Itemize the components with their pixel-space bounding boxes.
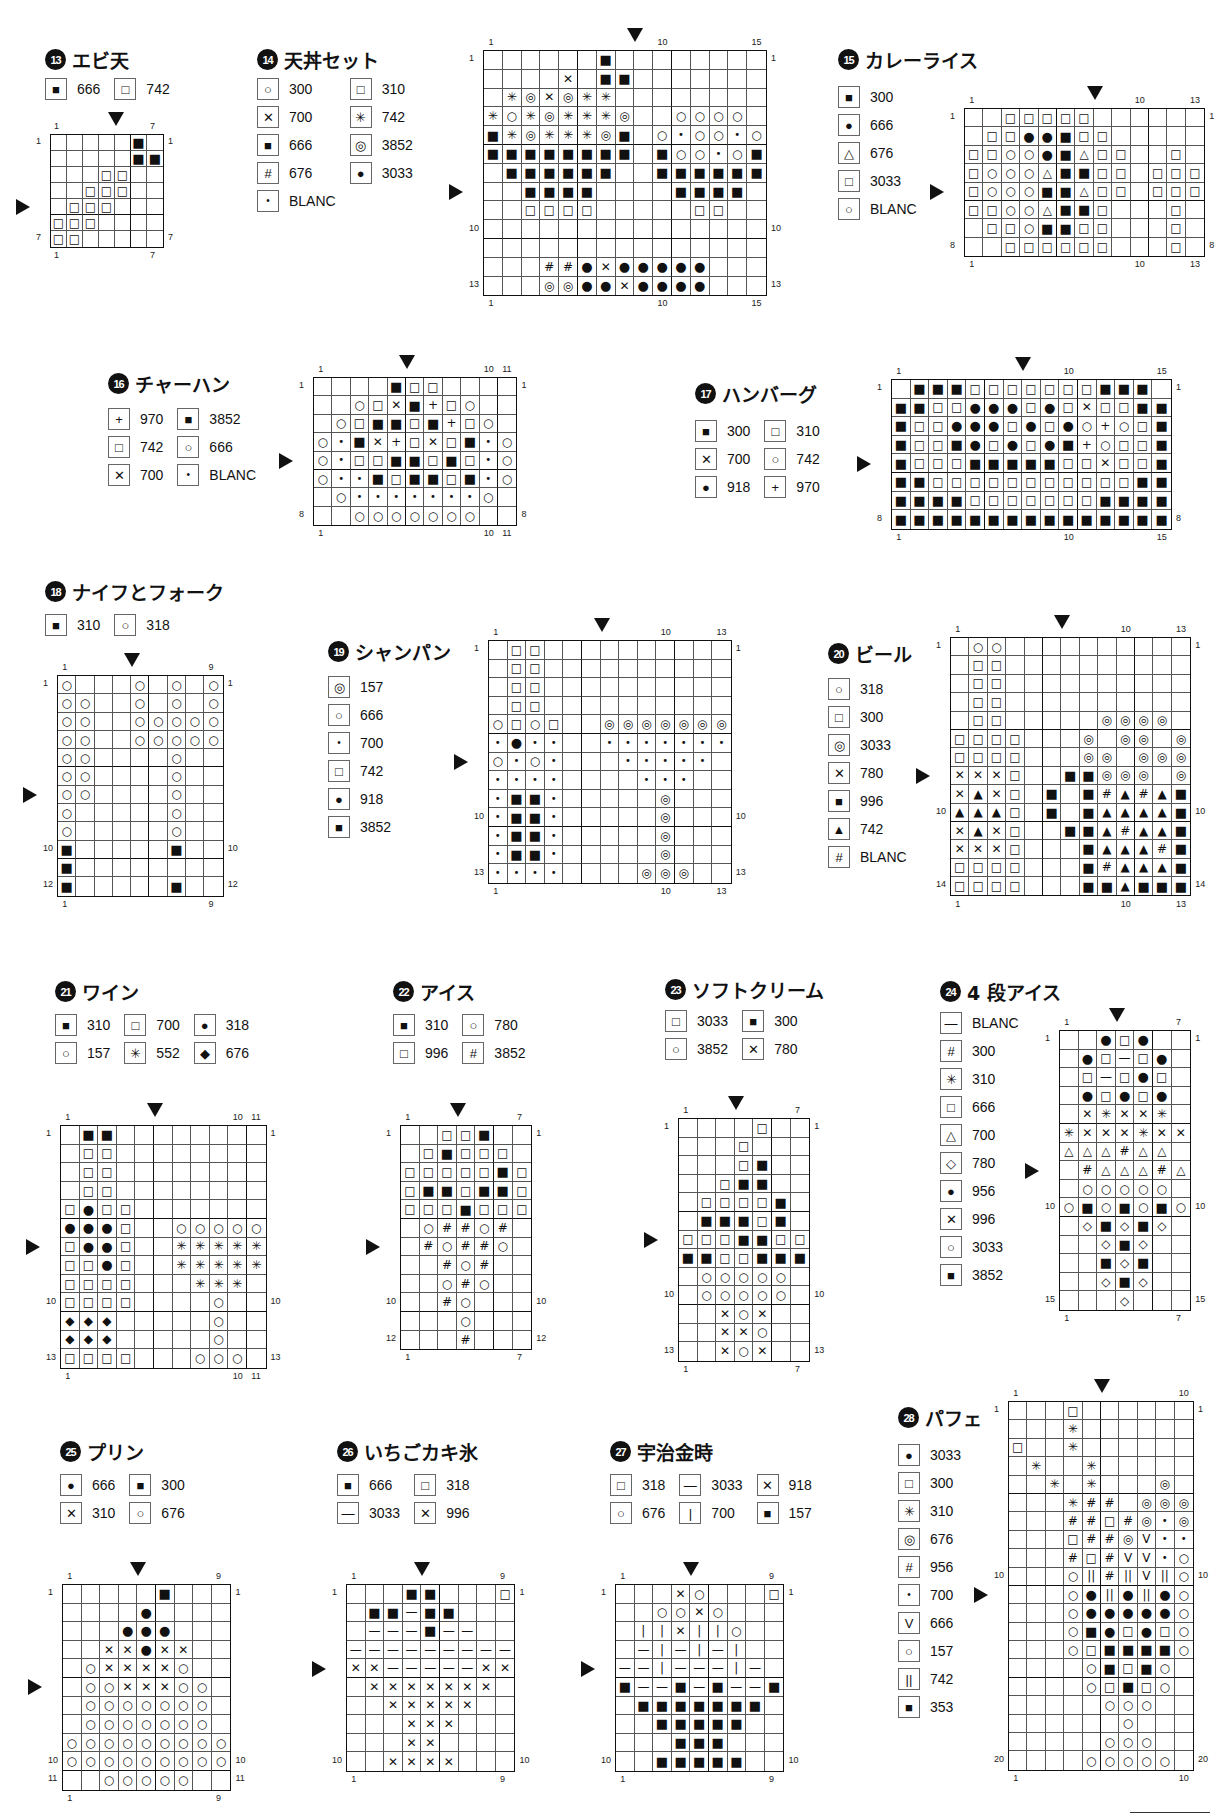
grid-cell (247, 1293, 266, 1312)
grid-cell: □ (83, 199, 99, 215)
grid-cell: — (403, 1659, 422, 1678)
color-legend: ■300●666△676□3033○BLANC (838, 86, 917, 220)
legend-thread-code: 666 (209, 439, 232, 455)
grid-cell (698, 1138, 717, 1157)
grid-cell (154, 1163, 173, 1182)
grid-cell (247, 1275, 266, 1294)
grid-cell: □ (578, 201, 597, 220)
axis-label-left: 11 (48, 1773, 57, 1783)
dot-icon: • (257, 190, 279, 212)
grid-cell (601, 808, 620, 827)
grid-cell (1079, 1031, 1098, 1050)
grid-cell (228, 1331, 247, 1350)
grid-cell: ✕ (951, 785, 969, 803)
grid-cell (1135, 638, 1153, 656)
grid-cell (186, 822, 204, 840)
grid-cell (484, 183, 503, 202)
legend-thread-code: 742 (796, 451, 819, 467)
grid-cell: # (1119, 1512, 1137, 1530)
grid-cell (1149, 201, 1167, 219)
triangle-open-icon: △ (838, 142, 860, 164)
grid-cell: □ (983, 127, 1001, 145)
grid-cell: ◆ (98, 1312, 117, 1331)
grid-cell (522, 239, 541, 258)
grid-cell: ■ (690, 1697, 709, 1716)
grid-cell: ■ (1152, 399, 1171, 418)
grid-cell: ✕ (1079, 1105, 1098, 1124)
center-row-arrow-icon (449, 184, 463, 200)
grid-cell (616, 1697, 635, 1716)
grid-cell (175, 1604, 194, 1623)
grid-cell (563, 660, 582, 679)
grid-cell: □ (1004, 492, 1023, 511)
legend-item: #956 (898, 1556, 961, 1578)
grid-cell: ▲ (951, 804, 969, 822)
grid-cell: ■ (98, 1126, 117, 1145)
grid-cell: ✳ (191, 1256, 210, 1275)
grid-cell: ■ (772, 1212, 791, 1231)
legend-thread-code: 676 (642, 1505, 665, 1521)
grid-cell: ✕ (716, 1305, 735, 1324)
color-legend: —BLANC#300✳310□666△700◇780●956✕996○3033■… (940, 1012, 1019, 1286)
grid-cell (638, 697, 657, 716)
grid-cell (563, 753, 582, 772)
grid-cell (765, 1659, 784, 1678)
legend-item: ■310 (55, 1014, 110, 1036)
grid-cell: ■ (635, 1697, 654, 1716)
grid-cell: ■ (1075, 201, 1093, 219)
pattern-title-text: 4 段アイス (967, 978, 1061, 1005)
grid-cell (1009, 1733, 1027, 1751)
grid-cell: □ (461, 452, 479, 470)
grid-cell: ○ (76, 731, 94, 749)
grid-cell (63, 1697, 82, 1716)
grid-cell: □ (1022, 380, 1041, 399)
grid-cell (712, 808, 731, 827)
grid-cell: □ (1075, 109, 1093, 127)
grid-cell: ● (653, 277, 672, 296)
legend-thread-code: 996 (972, 1211, 995, 1227)
grid-cell: □ (61, 1275, 80, 1294)
stitch-grid: □□□□□□□●●■□□□□○○●■△□□□□○○○△■■□□□□□□○○○■■… (964, 108, 1205, 257)
grid-cell: ■ (421, 1604, 440, 1623)
grid-cell (61, 1126, 80, 1145)
grid-cell (212, 1585, 231, 1604)
grid-cell: ○ (156, 1715, 175, 1734)
grid-cell: ✕ (1116, 1124, 1135, 1143)
grid-cell: ○ (772, 1286, 791, 1305)
grid-cell: ○ (63, 1752, 82, 1771)
grid-cell: ○ (1153, 1180, 1172, 1199)
grid-cell (747, 70, 766, 89)
grid-cell: ■ (494, 1182, 513, 1201)
axis-label-right: 1 (168, 136, 173, 146)
grid-cell: ■ (791, 1249, 810, 1268)
grid-cell (965, 127, 983, 145)
grid-cell: • (489, 846, 508, 865)
grid-cell: □ (969, 675, 987, 693)
grid-cell (131, 183, 147, 199)
grid-cell: ◎ (1156, 1476, 1174, 1494)
grid-cell: □ (1041, 380, 1060, 399)
grid-cell: ○ (247, 1219, 266, 1238)
legend-thread-code: 157 (360, 679, 383, 695)
grid-cell (656, 641, 675, 660)
grid-cell (1172, 1291, 1191, 1310)
grid-cell: | (728, 1641, 747, 1660)
center-column-arrow-icon (124, 653, 140, 667)
axis-label-left: 13 (469, 279, 479, 289)
grid-cell: □ (988, 675, 1006, 693)
grid-cell (1175, 1733, 1193, 1751)
grid-cell (100, 1622, 119, 1641)
axis-label-left: 10 (664, 1289, 674, 1299)
axis-label-right: 8 (1176, 513, 1181, 523)
grid-cell (619, 808, 638, 827)
grid-cell (1153, 1031, 1172, 1050)
grid-cell (154, 1219, 173, 1238)
grid-cell (76, 804, 94, 822)
grid-cell (1060, 1105, 1079, 1124)
grid-cell: ○ (691, 126, 710, 145)
grid-cell (1009, 1494, 1027, 1512)
grid-cell: □ (698, 1193, 717, 1212)
grid-cell (1027, 1531, 1045, 1549)
grid-cell (753, 1138, 772, 1157)
grid-cell: ○ (58, 767, 76, 785)
